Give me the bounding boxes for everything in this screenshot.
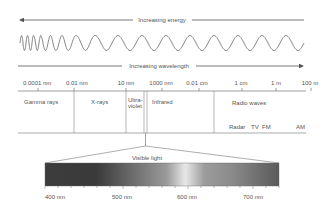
visible-ticks: [45, 186, 279, 189]
scale-tick-label: 1000 nm: [149, 80, 172, 86]
band-ultraviolet: Ultra- violet: [128, 97, 143, 110]
scale-axis: [18, 88, 311, 91]
scale-tick-label: 0.01 cm: [186, 80, 207, 86]
visible-tick-label: 500 nm: [112, 194, 132, 200]
band-radio-waves: Radio waves: [232, 100, 266, 106]
scale-tick-label: 0.01 nm: [66, 80, 88, 86]
visible-tick-label: 400 nm: [45, 194, 65, 200]
band-ultraviolet-line2: violet: [128, 103, 142, 109]
band-ultraviolet-line1: Ultra-: [128, 97, 143, 103]
scale-tick-label: 1 m: [271, 80, 281, 86]
visible-light-label: Visible light: [132, 155, 162, 161]
band-gamma-rays: Gamma rays: [24, 99, 58, 105]
visible-tick-label: 600 nm: [177, 194, 197, 200]
visible-spectrum-bar: [45, 163, 279, 186]
subband-am: AM: [296, 124, 305, 130]
scale-tick-label: 100 m: [302, 80, 319, 86]
scale-tick-label: 0.0001 nm: [23, 80, 51, 86]
scale-tick-label: 10 nm: [118, 80, 135, 86]
band-x-rays: X-rays: [91, 99, 108, 105]
energy-label: Increasing energy: [135, 17, 189, 23]
wavelength-label: Increasing wavelength: [126, 63, 192, 69]
wave-curve: [20, 36, 304, 51]
scale-tick-label: 1 cm: [234, 80, 247, 86]
subband-fm: FM: [262, 124, 271, 130]
visible-tick-label: 700 nm: [243, 194, 263, 200]
subband-radar: Radar: [229, 124, 245, 130]
spectrum-graphics: [0, 0, 324, 217]
band-infrared: Infrared: [152, 99, 173, 105]
subband-tv: TV: [251, 124, 259, 130]
